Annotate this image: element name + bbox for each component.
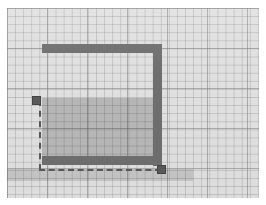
wall-right[interactable] <box>153 44 162 166</box>
handle-bottom-right[interactable] <box>157 165 166 174</box>
wall-top[interactable] <box>42 44 162 53</box>
horizontal-guide-line[interactable] <box>39 169 161 171</box>
vertical-guide-line[interactable] <box>39 100 41 170</box>
shaded-interior-region[interactable] <box>42 98 153 156</box>
wall-bottom[interactable] <box>42 156 162 165</box>
handle-top-left[interactable] <box>32 96 41 105</box>
grid-drawing-canvas[interactable] <box>7 8 259 198</box>
drawing-app-root <box>0 0 266 205</box>
